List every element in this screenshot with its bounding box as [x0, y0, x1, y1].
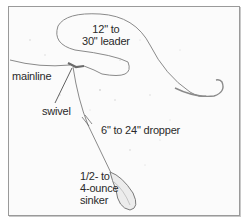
swivel-label: swivel [42, 105, 71, 117]
dropper-label: 6" to 24" dropper [101, 124, 180, 136]
dropper-line [73, 67, 112, 175]
mainline-label: mainline [12, 70, 51, 82]
swivel-pointer [55, 68, 72, 103]
swivel-icon [68, 63, 84, 67]
sinker-label-line3: sinker [80, 194, 118, 206]
sinker-label-line1: 1/2- to [80, 170, 118, 182]
sinker-label-line2: 4-ounce [80, 182, 118, 194]
leader-label-line1: 12" to [82, 23, 130, 35]
mainline-line [10, 60, 70, 66]
leader-label-line2: 30" leader [82, 35, 130, 47]
leader-line [57, 14, 206, 97]
hook-icon [175, 80, 223, 97]
sinker-label: 1/2- to 4-ounce sinker [80, 170, 118, 206]
leader-label: 12" to 30" leader [82, 23, 130, 47]
